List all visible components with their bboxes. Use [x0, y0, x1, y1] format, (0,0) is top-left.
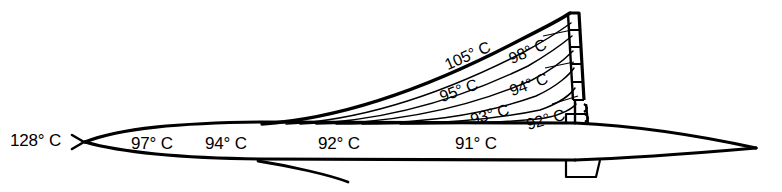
aircraft-line-art: [0, 0, 782, 192]
temp-label-mid-fuselage: 92° C: [318, 135, 360, 152]
concorde-temperature-diagram: 128° C 97° C 94° C 92° C 91° C 105° C 98…: [0, 0, 782, 192]
temp-label-aft-fuselage: 91° C: [455, 135, 497, 152]
temp-label-nose-tip: 128° C: [10, 132, 61, 149]
wing-leading-edge-curves: [262, 13, 576, 124]
fuselage-outline: [85, 122, 756, 160]
lower-wing-strake: [258, 161, 348, 182]
temp-label-forward-fuselage: 97° C: [131, 135, 173, 152]
nose-callout-wedge: [72, 135, 84, 149]
temp-label-fuselage-2: 94° C: [205, 135, 247, 152]
